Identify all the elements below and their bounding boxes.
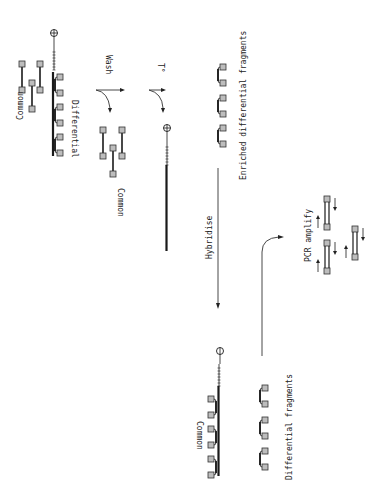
- temperature-arrow: [149, 88, 166, 113]
- hybridise-arrow: [216, 168, 220, 309]
- bead-plus-top: [51, 30, 58, 71]
- pcr-products: [316, 196, 365, 274]
- label-pcr-amplify: PCR amplify: [304, 209, 313, 262]
- enriched-fragments: [218, 64, 226, 147]
- label-wash: Wash: [104, 55, 113, 74]
- label-hybridise: Hybridise: [205, 215, 214, 259]
- bead-minus-bottom: [217, 348, 224, 387]
- bead-plus-heated: [164, 125, 171, 166]
- label-differential-fragments: Differential fragments: [285, 374, 294, 480]
- differential-fragments-free: [260, 385, 268, 470]
- subtraction-diagram: Common Differential Wash Common T°: [0, 0, 378, 502]
- common-fragments-bottom: [208, 396, 216, 478]
- label-common-top: Common: [16, 91, 25, 120]
- wash-arrow: [96, 88, 125, 113]
- label-common-washed: Common: [116, 188, 125, 217]
- common-fragments-washed: [100, 127, 125, 177]
- label-enriched: Enriched differential fragments: [239, 31, 248, 180]
- pcr-arrow: [262, 235, 284, 356]
- label-temperature: T°: [156, 63, 165, 73]
- label-common-bottom: Common: [195, 421, 204, 450]
- differential-fragments-top: [55, 74, 63, 156]
- label-differential-top: Differential: [70, 100, 79, 158]
